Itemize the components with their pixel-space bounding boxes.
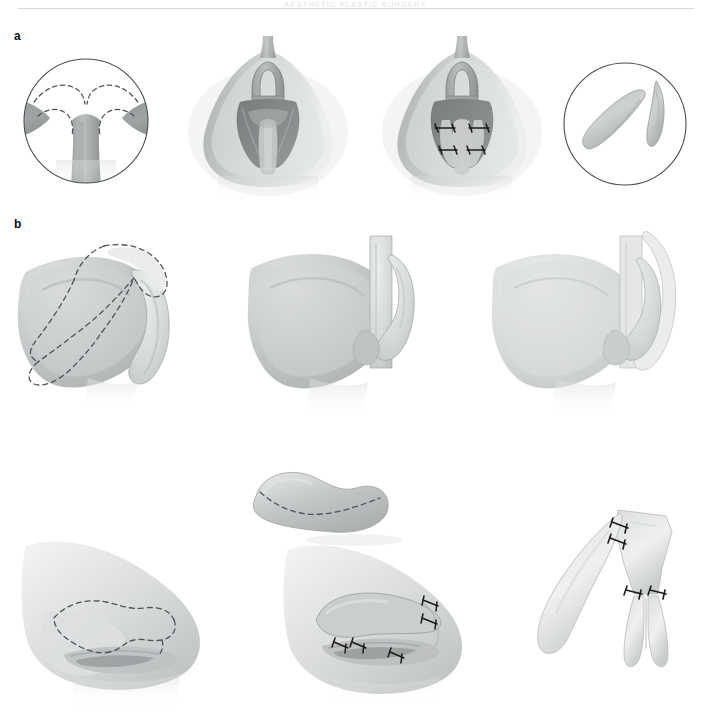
lateral-nose-marking: [10, 518, 240, 708]
ear-graft-outline: [8, 228, 228, 418]
cartilage-framework-sutured: [520, 498, 705, 683]
panel-letter-a: a: [14, 30, 21, 42]
ear-after-harvest: [240, 232, 460, 422]
ear-closed: [470, 232, 702, 422]
lateral-nose-graft-inset: [272, 528, 502, 698]
figure-root: AESTHETIC PLASTIC SURGERY: [0, 0, 711, 715]
running-head-text: AESTHETIC PLASTIC SURGERY: [0, 0, 711, 8]
nasal-base-view-preop: [178, 36, 358, 201]
header-rule: [18, 8, 694, 9]
cartilage-graft-inset: [556, 60, 694, 188]
nasal-base-view-sutured: [372, 36, 552, 201]
endonasal-inset-view: [16, 56, 156, 186]
running-head: AESTHETIC PLASTIC SURGERY: [0, 0, 711, 12]
